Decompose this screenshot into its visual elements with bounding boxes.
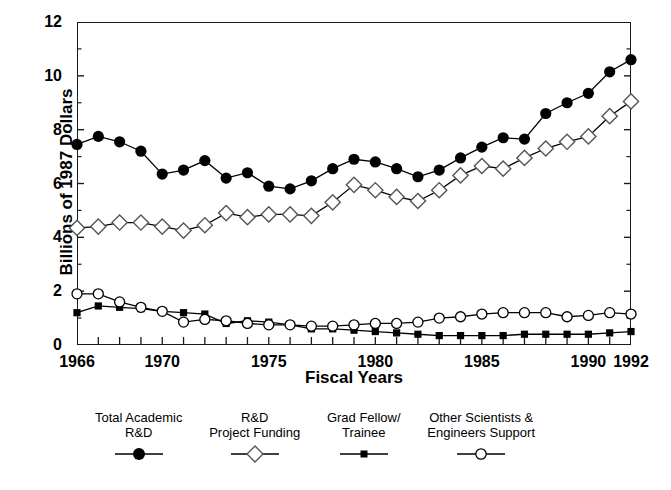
y-tick-label: 10 — [0, 68, 62, 84]
plot-area — [77, 22, 631, 345]
y-tick-label: 4 — [0, 229, 62, 245]
y-tick-label: 6 — [0, 176, 62, 192]
x-tick-label: 1985 — [464, 354, 500, 370]
legend-label-line2: R&D — [125, 425, 152, 440]
y-tick-label: 0 — [0, 337, 62, 353]
y-tick-label: 2 — [0, 283, 62, 299]
y-tick-label: 12 — [0, 14, 62, 30]
legend-label-line1: R&D — [241, 410, 268, 425]
chart-legend: Total Academic R&D R&D Project Funding G… — [95, 410, 535, 475]
x-tick-label: 1992 — [613, 354, 649, 370]
legend-label-line2: Project Funding — [209, 425, 300, 440]
legend-label-line2: Trainee — [342, 425, 386, 440]
x-tick-label: 1970 — [144, 354, 180, 370]
open-diamond-marker-icon — [227, 446, 283, 462]
legend-label-line2: Engineers Support — [427, 425, 535, 440]
x-tick-label: 1975 — [251, 354, 287, 370]
chart-figure: Billions of 1987 Dollars Fiscal Years To… — [0, 0, 671, 490]
x-tick-label: 1980 — [358, 354, 394, 370]
legend-item-rd-project-funding: R&D Project Funding — [209, 410, 300, 462]
y-tick-label: 8 — [0, 122, 62, 138]
legend-label-line1: Other Scientists & — [429, 410, 533, 425]
legend-item-other-scientists-engineers: Other Scientists & Engineers Support — [427, 410, 535, 462]
legend-item-total-academic-rd: Total Academic R&D — [95, 410, 182, 462]
x-tick-label: 1990 — [571, 354, 607, 370]
legend-item-grad-fellow-trainee: Grad Fellow/ Trainee — [327, 410, 401, 462]
legend-label-line1: Total Academic — [95, 410, 182, 425]
filled-square-marker-icon — [336, 446, 392, 462]
x-tick-label: 1966 — [59, 354, 95, 370]
filled-circle-marker-icon — [111, 446, 167, 462]
legend-label-line1: Grad Fellow/ — [327, 410, 401, 425]
x-axis-title: Fiscal Years — [77, 368, 631, 388]
open-circle-marker-icon — [453, 446, 509, 462]
